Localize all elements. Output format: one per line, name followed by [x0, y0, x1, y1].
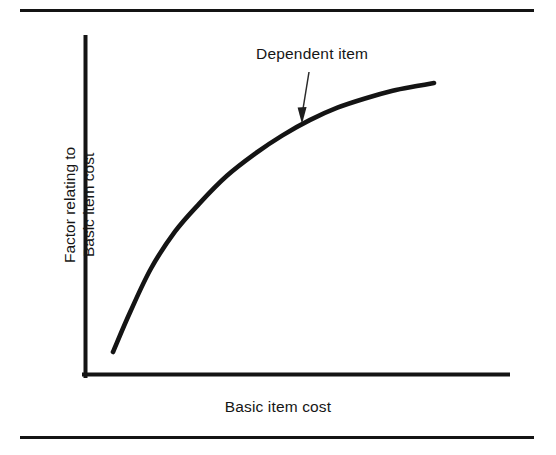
y-axis-label-line-2: Basic item cost	[80, 87, 99, 323]
y-axis-label: Factor relating to Basic item cost	[61, 87, 99, 323]
annotation-arrow-shaft	[303, 72, 310, 112]
annotation-label-dependent-item: Dependent item	[256, 45, 368, 63]
y-axis-label-container: Factor relating to Basic item cost	[0, 128, 160, 288]
figure-container: Dependent item Basic item cost Factor re…	[0, 0, 556, 455]
x-axis-label: Basic item cost	[0, 398, 556, 416]
data-curve-dependent-item	[113, 83, 434, 352]
y-axis-label-line-1: Factor relating to	[61, 87, 80, 323]
